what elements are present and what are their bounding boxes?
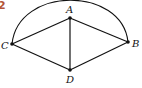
graph-diagram: 2 A B C D bbox=[0, 0, 142, 88]
label-c: C bbox=[1, 40, 9, 51]
edge-a-b bbox=[70, 18, 128, 42]
label-b: B bbox=[131, 38, 139, 49]
vertex-b bbox=[126, 40, 130, 44]
edge-d-b bbox=[70, 42, 128, 70]
vertex-d bbox=[68, 68, 72, 72]
label-d: D bbox=[65, 74, 74, 85]
label-a: A bbox=[65, 4, 73, 15]
edge-c-d bbox=[12, 44, 70, 70]
vertex-c bbox=[10, 42, 14, 46]
figure-number: 2 bbox=[0, 0, 6, 12]
vertex-a bbox=[68, 16, 72, 20]
